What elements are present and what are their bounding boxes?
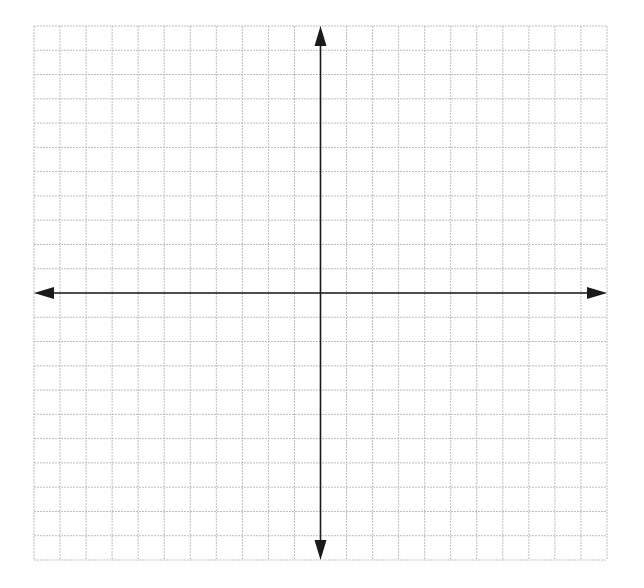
arrow-up-icon xyxy=(315,26,327,46)
arrow-left-icon xyxy=(34,287,54,299)
arrow-right-icon xyxy=(587,287,607,299)
arrow-down-icon xyxy=(315,540,327,560)
coordinate-plane xyxy=(0,0,644,588)
axes xyxy=(34,26,607,560)
